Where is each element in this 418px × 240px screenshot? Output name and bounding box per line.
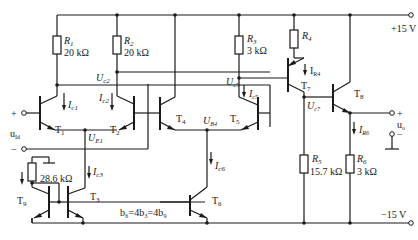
t4-label: T4 [176,113,186,126]
t5-label: T5 [230,113,240,126]
t9-label: T9 [17,195,27,208]
uc5-label: Uc5 [226,76,239,88]
t2-collector [117,96,134,104]
uc2-label: Uc2 [96,72,110,85]
t7-emitter-arrow [288,60,296,66]
ic2-label: Ic2 [98,92,109,105]
r2-value: 20 kΩ [124,47,149,58]
resistor-r1 [53,36,61,54]
ic5-arrow [242,92,246,98]
t5-emitter-arrow [241,125,249,130]
input-minus-label: − [11,144,17,155]
t6-emitter-arrow [199,213,207,218]
r5-label: R5 [311,153,322,166]
r6-label: R6 [356,153,367,166]
input-minus-terminal[interactable] [22,147,27,152]
ic2-arrow [110,105,114,111]
ir6-label: IR6 [358,124,369,136]
resistor-r3 [235,36,243,54]
r5-value: 15.7 kΩ [310,166,342,177]
uc7-label: Uc7 [307,100,321,112]
ir4-label: IR4 [310,65,320,77]
resistor-r6 [346,155,354,173]
t1-label: T1 [55,124,65,137]
t6-collector [190,187,207,200]
resistor-r4 [290,30,298,48]
negative-supply-label: −15 V [381,209,407,220]
input-plus-label: + [11,108,17,119]
resistor-r5 [300,155,308,173]
ic6-label: Ic6 [214,160,225,173]
junction [348,13,352,17]
r4-label: R4 [301,30,312,43]
output-plus-label: + [397,108,403,119]
negative-supply-terminal[interactable] [409,221,414,226]
ic5-label: Ic5 [248,88,258,100]
resistor-ref [28,163,36,181]
t1-collector [40,96,57,104]
ir6-arrow [352,129,356,135]
ic3-arrow [87,173,91,179]
junction [173,13,177,17]
ir4-arrow [303,70,307,76]
t2-label: T2 [110,124,120,137]
resistor-r2 [113,36,121,54]
t8-collector [333,82,350,92]
circuit-schematic: +15 V −15 V R1 20 kΩ R2 20 kΩ Uc2 T1 Ic1… [0,0,418,240]
junction [237,13,241,17]
ic6-arrow [209,159,213,165]
t8-label: T8 [354,88,364,101]
junction [302,221,306,225]
iref-arrow [20,179,24,185]
positive-supply-terminal[interactable] [409,13,414,18]
rref-value: 28.6 kΩ [40,173,72,184]
t9-collector [32,187,49,194]
ub4-label: UB4 [203,115,217,127]
positive-supply-label: +15 V [391,23,417,34]
junction [292,13,296,17]
junction [205,221,209,225]
junction [348,221,352,225]
ue1-label: UE1 [88,132,103,145]
junction [81,221,85,225]
t3-collector [68,188,85,194]
output-minus-label: − [397,129,403,140]
r6-value: 3 kΩ [357,166,377,177]
t4-collector [160,97,175,105]
r3-value: 3 kΩ [247,45,267,56]
ic3-label: Ic3 [92,166,103,179]
ic1-label: Ic1 [67,99,78,112]
t6-label: T6 [212,195,222,208]
junction [115,13,119,17]
input-plus-terminal[interactable] [22,111,27,116]
area-ratio-note: b₆=4b₃=4b₉ [120,207,167,218]
output-plus-terminal[interactable] [390,111,395,116]
input-label: uId [10,128,20,140]
output-minus-terminal[interactable] [390,132,395,137]
ic1-arrow [62,105,66,111]
r1-value: 20 kΩ [64,47,89,58]
